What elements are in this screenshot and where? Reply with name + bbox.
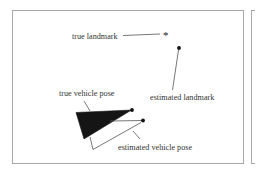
- estimated-landmark-dot: [177, 46, 181, 50]
- true-landmark-marker-icon: *: [163, 29, 169, 41]
- true-vehicle-pose-label: true vehicle pose: [59, 89, 115, 98]
- main-panel-frame: [13, 11, 244, 164]
- slam-diagram: true landmark * estimated landmark true …: [0, 0, 255, 172]
- estimated-vehicle-pose-dot: [141, 119, 145, 123]
- estimated-vehicle-heading-line: [110, 121, 143, 122]
- adjacent-panel-frame: [252, 11, 256, 164]
- estimated-landmark-label: estimated landmark: [150, 93, 215, 102]
- estimated-vehicle-pose-label: estimated vehicle pose: [118, 143, 192, 152]
- true-vehicle-pose-dot: [130, 108, 134, 112]
- true-landmark-label: true landmark: [72, 32, 119, 41]
